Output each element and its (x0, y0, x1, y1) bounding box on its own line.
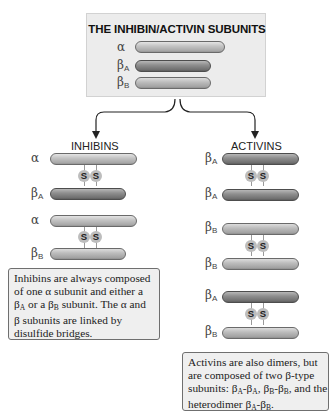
inhibin2-top-label: α (31, 213, 39, 227)
activin1-bottom-bar (222, 189, 299, 201)
inhibins-note: Inhibins are always composed of one α su… (8, 268, 160, 340)
beta-a-subunit-bar (135, 60, 211, 72)
inhibin1-beta-a-bar (50, 188, 126, 200)
activin1-top-bar (222, 153, 299, 165)
split-arrows-icon (0, 95, 335, 145)
inhibins-heading: INHIBINS (71, 140, 119, 152)
disulfide-s: S (257, 308, 269, 320)
note-line: Inhibins are always composed (14, 272, 154, 285)
note-line: subunits: βA-βA, βB-βB, and the (188, 382, 323, 398)
activins-note: Activins are also dimers, but are compos… (182, 352, 329, 411)
disulfide-s: S (78, 231, 90, 243)
note-line: of one α subunit and either a (14, 285, 154, 298)
label-beta-b: βB (117, 75, 129, 90)
note-line: disulfide bridges. (14, 327, 154, 340)
activin2-top-bar (222, 223, 299, 235)
inhibin2-bottom-label: βB (31, 246, 43, 261)
disulfide-s: S (257, 170, 269, 182)
activin1-bottom-label: βA (205, 186, 217, 201)
activin3-top-bar (222, 291, 299, 303)
disulfide-s: S (78, 170, 90, 182)
inhibin2-beta-b-bar (50, 248, 126, 260)
note-line: βA or a βB subunit. The α and (14, 298, 154, 314)
note-line: Activins are also dimers, but (188, 356, 323, 369)
note-line: β subunits are linked by (14, 314, 154, 327)
alpha-subunit-bar (135, 41, 225, 53)
note-line: heterodimer βA-βB. (188, 398, 323, 414)
subunits-box: THE INHIBIN/ACTIVIN SUBUNITS α βA βB (86, 13, 266, 97)
activin3-top-label: βA (205, 288, 217, 303)
disulfide-s: S (245, 308, 257, 320)
activin2-top-label: βB (205, 220, 217, 235)
inhibin1-top-label: α (31, 151, 39, 165)
note-line: are composed of two β-type (188, 369, 323, 382)
activin1-top-label: βA (205, 151, 217, 166)
inhibin2-alpha-bar (50, 215, 137, 227)
inhibin1-bottom-label: βA (31, 186, 43, 201)
activins-heading: ACTIVINS (231, 140, 282, 152)
activin2-bottom-bar (222, 258, 299, 270)
activin3-bottom-bar (222, 327, 299, 339)
inhibin1-alpha-bar (50, 153, 137, 165)
disulfide-s: S (245, 240, 257, 252)
subunits-title: THE INHIBIN/ACTIVIN SUBUNITS (87, 23, 267, 35)
disulfide-s: S (245, 170, 257, 182)
activin2-bottom-label: βB (205, 256, 217, 271)
disulfide-s: S (90, 170, 102, 182)
beta-b-subunit-bar (135, 77, 211, 89)
activin3-bottom-label: βB (205, 324, 217, 339)
label-alpha: α (117, 40, 125, 54)
label-beta-a: βA (117, 58, 129, 73)
disulfide-s: S (90, 231, 102, 243)
disulfide-s: S (257, 240, 269, 252)
